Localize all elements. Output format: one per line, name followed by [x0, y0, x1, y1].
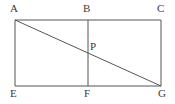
geometry-figure: A B C P E F G — [0, 0, 175, 104]
vertex-label-A: A — [10, 3, 18, 14]
vertex-label-G: G — [158, 88, 166, 99]
vertex-label-B: B — [83, 3, 90, 14]
vertex-label-P: P — [90, 41, 96, 52]
vertex-label-F: F — [84, 88, 90, 99]
vertex-label-C: C — [157, 3, 164, 14]
vertex-label-E: E — [10, 88, 17, 99]
